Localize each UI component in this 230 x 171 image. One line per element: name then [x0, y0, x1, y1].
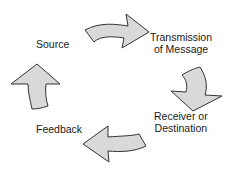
node-receiver-label-line2: Destination — [154, 122, 208, 134]
node-feedback-label: Feedback — [36, 123, 82, 135]
cycle-arrows — [0, 0, 230, 171]
arrow-right-icon — [85, 14, 149, 48]
communication-cycle-diagram: Source Transmission of Message Receiver … — [0, 0, 230, 171]
node-feedback: Feedback — [36, 123, 82, 135]
node-transmission: Transmission of Message — [150, 31, 212, 55]
node-transmission-label-line1: Transmission — [150, 31, 212, 43]
arrow-up-icon — [11, 64, 60, 109]
node-receiver-label-line1: Receiver or — [154, 110, 208, 122]
node-receiver: Receiver or Destination — [154, 110, 208, 134]
node-transmission-label-line2: of Message — [150, 43, 212, 55]
arrow-down-icon — [171, 67, 222, 111]
arrow-left-icon — [83, 126, 146, 162]
node-source-label: Source — [36, 38, 69, 50]
node-source: Source — [36, 38, 69, 50]
